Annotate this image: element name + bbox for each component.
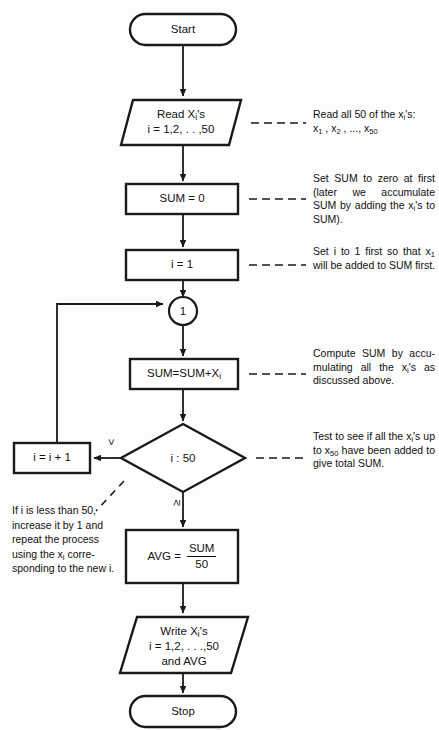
connector-circle-shape	[169, 297, 197, 325]
i-init-box-shape	[126, 250, 238, 280]
flowchart-page: Start Read Xi's i = 1,2, . . ,50 SUM = 0…	[0, 0, 439, 730]
annotation-accumulate: Compute SUM by accu-mulating all the xi'…	[313, 347, 435, 388]
annotation-decision: Test to see if all the xi's up to x50 ha…	[313, 430, 435, 471]
branch-label-greater-equal: ≥	[170, 496, 182, 510]
annotation-read: Read all 50 of the xi's: x1 , x2 , ..., …	[313, 108, 433, 135]
annotation-read-line2: x1 , x2 , ..., x50	[313, 122, 433, 136]
read-parallelogram-shape	[121, 100, 241, 145]
write-parallelogram-shape	[120, 617, 248, 673]
start-terminator-shape	[130, 14, 236, 45]
branch-label-less-than: <	[105, 435, 117, 449]
average-box-shape	[126, 530, 238, 583]
increment-box-shape	[14, 443, 90, 473]
annotation-increment: If i is less than 50, increase it by 1 a…	[12, 503, 120, 576]
stop-terminator-shape	[130, 696, 236, 727]
decision-diamond-shape	[121, 424, 245, 492]
annotation-sum-init: Set SUM to zero at first (later we accum…	[313, 172, 435, 226]
annotation-i-init: Set i to 1 first so that x1 will be adde…	[313, 245, 435, 272]
sum-init-box-shape	[126, 184, 238, 214]
accumulate-box-shape	[130, 359, 238, 389]
